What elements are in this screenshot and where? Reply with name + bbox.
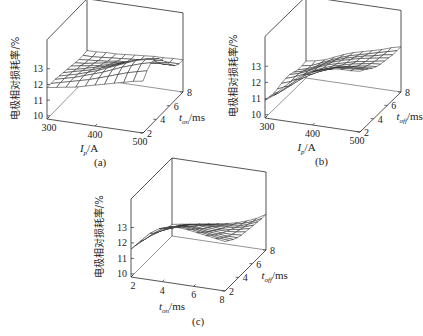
- caption-a: (a): [94, 156, 106, 168]
- y-tick-label: 4: [243, 272, 248, 283]
- y-axis-label: ton/ms: [179, 111, 205, 126]
- y-axis-label: toff/ms: [396, 110, 422, 125]
- z-axis-label: 电极相对损耗率/%: [9, 37, 21, 120]
- z-axis-label: 电极相对损耗率/%: [93, 195, 105, 278]
- z-tick-label: 11: [251, 93, 261, 104]
- x-axis-label: ton/ms: [159, 300, 185, 315]
- z-tick-label: 12: [251, 77, 261, 88]
- z-tick-label: 12: [33, 79, 43, 90]
- surface-mesh: [265, 47, 401, 100]
- x-tick-label: 300: [260, 121, 275, 132]
- box-edge-top-left: [47, 0, 87, 40]
- box-edge-top-back: [172, 158, 266, 172]
- y-tick-label: 4: [160, 114, 165, 125]
- surface-plot-c: 1011121324682468电极相对损耗率/%ton/mstoff/ms: [93, 158, 288, 315]
- x-tick-label: 500: [350, 135, 365, 146]
- box-edge-floor-left: [131, 236, 172, 277]
- y-tick-label: 2: [229, 286, 234, 297]
- y-tick-label: 6: [174, 101, 179, 112]
- box-edge-top-left: [131, 158, 172, 199]
- x-axis-label: Ip/A: [296, 141, 315, 156]
- x-tick: [360, 130, 362, 132]
- y-axis-label: toff/ms: [261, 269, 287, 284]
- z-tick-label: 12: [117, 237, 127, 248]
- x-tick-label: 4: [160, 285, 165, 296]
- y-tick-label: 8: [270, 245, 275, 256]
- z-axis-label: 电极相对损耗率/%: [227, 34, 239, 117]
- z-tick-label: 10: [33, 110, 43, 121]
- x-tick-label: 2: [131, 280, 136, 291]
- y-tick-label: 8: [405, 87, 410, 98]
- caption-c: (c): [192, 315, 204, 327]
- surface-cell: [140, 233, 154, 241]
- axis-y-line: [143, 92, 183, 133]
- figure-canvas: 101112133004005002468电极相对损耗率/%Ip/Aton/ms…: [0, 0, 423, 336]
- y-tick-label: 2: [147, 128, 152, 139]
- x-axis-label: Ip/A: [79, 142, 98, 157]
- x-tick-label: 500: [133, 136, 148, 147]
- x-tick-label: 400: [88, 129, 103, 140]
- x-tick: [95, 124, 97, 126]
- axis-y-line: [360, 92, 401, 132]
- axis-y-line: [225, 250, 266, 291]
- x-tick: [313, 123, 315, 125]
- box-edge-top-back: [87, 0, 183, 13]
- x-tick-label: 300: [42, 122, 57, 133]
- x-tick: [194, 284, 196, 286]
- z-tick-label: 11: [33, 95, 43, 106]
- z-tick-label: 13: [117, 222, 127, 233]
- x-tick-label: 6: [191, 289, 196, 300]
- surface-mesh: [47, 51, 183, 88]
- x-tick: [225, 289, 227, 291]
- caption-b: (b): [315, 155, 328, 167]
- surface-mesh: [131, 214, 266, 249]
- surface-cell: [131, 240, 145, 250]
- x-tick: [143, 131, 145, 133]
- surface-plot-b: 101112133004005002468电极相对损耗率/%Ip/Atoff/m…: [227, 0, 423, 156]
- x-tick-label: 400: [305, 128, 320, 139]
- box-edge-floor-back: [306, 78, 401, 92]
- surface-plot-a: 101112133004005002468电极相对损耗率/%Ip/Aton/ms: [9, 0, 205, 157]
- box-edge-top-left: [265, 0, 306, 36]
- z-tick-label: 11: [117, 253, 127, 264]
- box-edge-top-back: [306, 0, 401, 10]
- z-tick-label: 10: [117, 268, 127, 279]
- z-tick-label: 13: [33, 63, 43, 74]
- y-tick-label: 2: [364, 127, 369, 138]
- x-tick-label: 8: [220, 294, 225, 305]
- z-tick-label: 10: [251, 109, 261, 120]
- z-tick-label: 13: [251, 61, 261, 72]
- x-tick: [162, 280, 164, 282]
- y-tick-label: 4: [378, 114, 383, 125]
- figure: 101112133004005002468电极相对损耗率/%Ip/Aton/ms…: [0, 0, 423, 336]
- axis-x-line: [131, 277, 225, 291]
- y-tick-label: 8: [187, 87, 192, 98]
